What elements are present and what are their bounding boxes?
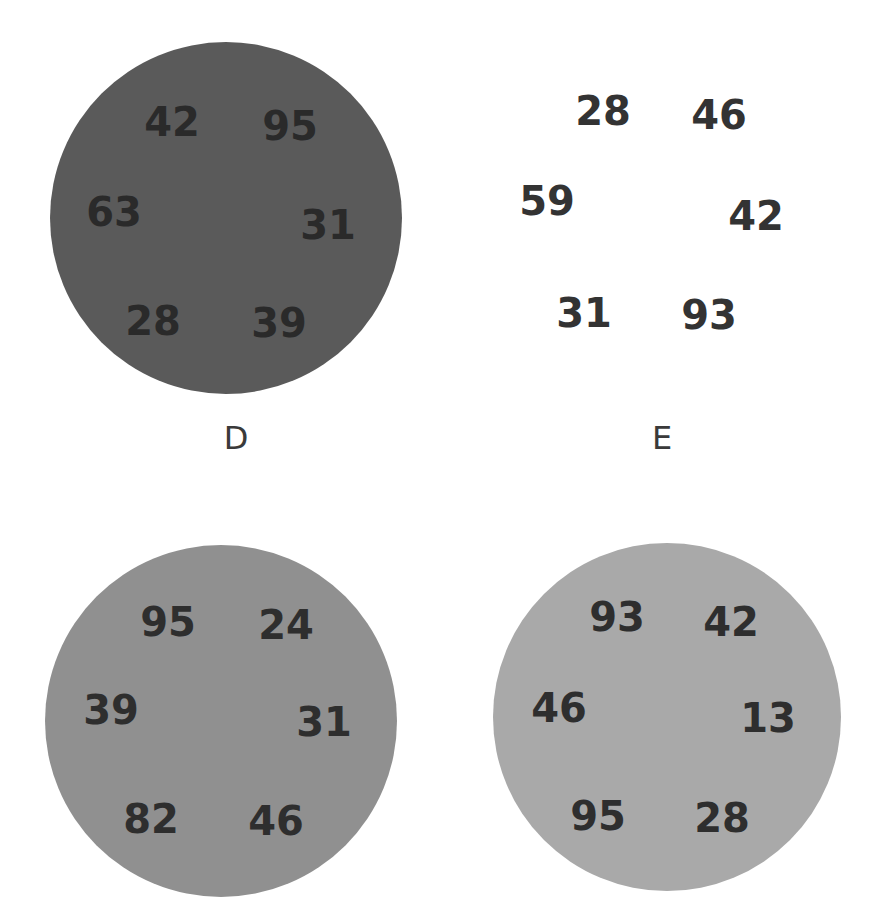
plate-d-number: 39 <box>251 303 307 343</box>
plate-f-number: 46 <box>248 801 304 841</box>
plate-f-number: 31 <box>296 702 352 742</box>
plate-g-number: 42 <box>703 602 759 642</box>
plate-g-number: 95 <box>570 796 626 836</box>
plate-d-number: 31 <box>300 205 356 245</box>
plate-d-number: 63 <box>86 192 142 232</box>
plate-f-number: 24 <box>258 605 314 645</box>
plate-e-number: 42 <box>728 196 784 236</box>
plate-e-number: 93 <box>681 295 737 335</box>
plate-d-number: 42 <box>144 102 200 142</box>
plate-d-label: D <box>224 422 249 454</box>
plate-e-number: 46 <box>691 95 747 135</box>
plate-f-number: 95 <box>140 602 196 642</box>
plate-f-number: 82 <box>123 799 179 839</box>
plate-d-number: 95 <box>262 106 318 146</box>
plate-g-number: 93 <box>589 597 645 637</box>
plate-e-number: 28 <box>575 91 631 131</box>
plate-g-number: 46 <box>531 688 587 728</box>
plate-d-number: 28 <box>125 301 181 341</box>
plate-g-number: 13 <box>740 698 796 738</box>
plate-f-number: 39 <box>83 690 139 730</box>
plate-e-label: E <box>652 422 672 454</box>
plate-g-number: 28 <box>694 798 750 838</box>
plate-e-number: 59 <box>519 181 575 221</box>
plate-e-number: 31 <box>556 293 612 333</box>
